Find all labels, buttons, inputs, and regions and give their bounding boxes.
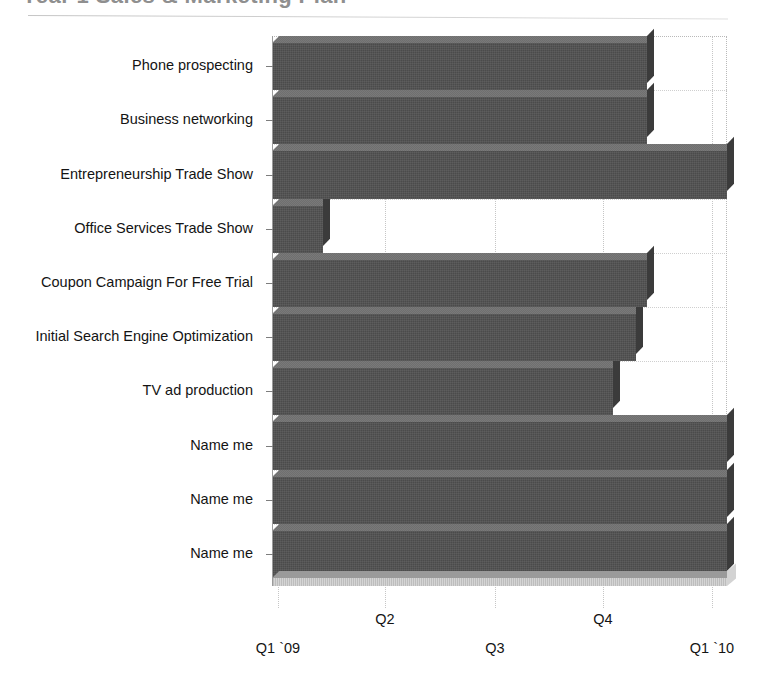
bar-side-face: [613, 354, 620, 408]
bar-side-face: [727, 517, 734, 571]
y-axis-tick: [266, 175, 273, 176]
bar: [272, 206, 323, 253]
y-axis-label: Office Services Trade Show: [0, 221, 262, 236]
y-axis-label: Business networking: [0, 112, 262, 127]
bar-chart: Phone prospectingBusiness networkingEntr…: [0, 0, 767, 689]
y-axis-label: Initial Search Engine Optimization: [0, 329, 262, 344]
y-axis-label: Name me: [0, 438, 262, 453]
y-axis-tick: [266, 500, 273, 501]
bar-side-face: [727, 462, 734, 516]
bar-side-face: [647, 83, 654, 137]
bar-side-face: [727, 137, 734, 191]
y-axis-label: Entrepreneurship Trade Show: [0, 167, 262, 182]
y-axis-tick: [266, 120, 273, 121]
bar-side-face: [636, 300, 643, 354]
y-axis-label: Phone prospecting: [0, 58, 262, 73]
y-axis-tick: [266, 66, 273, 67]
x-axis-label: Q1 `09: [256, 641, 300, 656]
y-axis-tick: [266, 229, 273, 230]
bar: [272, 314, 636, 361]
y-axis-label: Name me: [0, 546, 262, 561]
y-axis-tick: [266, 391, 273, 392]
bar: [272, 151, 727, 198]
y-axis-label: Name me: [0, 492, 262, 507]
y-axis-line: [272, 36, 273, 586]
y-axis-label: Coupon Campaign For Free Trial: [0, 275, 262, 290]
y-axis-label: TV ad production: [0, 383, 262, 398]
y-axis-tick: [266, 446, 273, 447]
bar: [272, 422, 727, 469]
x-axis-label: Q2: [375, 612, 394, 627]
bar: [272, 260, 647, 307]
x-axis-label: Q1 `10: [690, 641, 734, 656]
bar-top-face: [272, 199, 330, 206]
x-axis-label: Q4: [593, 612, 612, 627]
bar-side-face: [727, 408, 734, 462]
floor-top-edge: [272, 571, 734, 578]
bar-side-face: [323, 191, 330, 245]
bar-side-face: [647, 246, 654, 300]
bar-top-face: [272, 524, 734, 531]
bar: [272, 97, 647, 144]
bar-top-face: [272, 253, 655, 260]
bar: [272, 43, 647, 90]
bar-top-face: [272, 470, 734, 477]
bar-top-face: [272, 36, 655, 43]
y-axis-tick: [266, 554, 273, 555]
bar-side-face: [647, 29, 654, 83]
y-axis-tick: [266, 283, 273, 284]
bar: [272, 368, 613, 415]
bar: [272, 477, 727, 524]
bar-top-face: [272, 361, 620, 368]
bar-top-face: [272, 144, 734, 151]
bar-top-face: [272, 90, 655, 97]
y-axis-tick: [266, 337, 273, 338]
x-axis-label: Q3: [485, 641, 504, 656]
bar-top-face: [272, 307, 643, 314]
floor-slab: [272, 578, 727, 586]
bar-top-face: [272, 415, 734, 422]
